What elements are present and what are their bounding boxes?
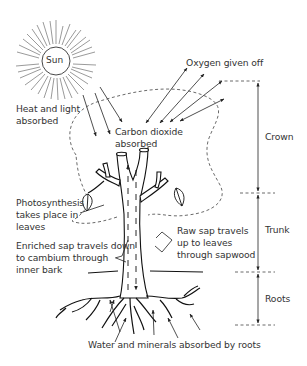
carbon-dioxide-label: Carbon dioxide absorbed	[115, 126, 183, 150]
section-label-trunk: Trunk	[265, 224, 290, 236]
section-label-crown: Crown	[265, 131, 293, 143]
heat-light-label: Heat and light absorbed	[16, 103, 80, 127]
oxygen-label: Oxygen given off	[186, 57, 263, 69]
enriched-sap-label: Enriched sap travels down to cambium thr…	[16, 240, 135, 276]
section-label-roots: Roots	[265, 293, 290, 305]
photosynthesis-label: Photosynthesis takes place in leaves	[16, 197, 84, 233]
sun-label: Sun	[46, 55, 63, 65]
raw-sap-label: Raw sap travels up to leaves through sap…	[177, 225, 255, 261]
water-minerals-label: Water and minerals absorbed by roots	[88, 339, 261, 351]
